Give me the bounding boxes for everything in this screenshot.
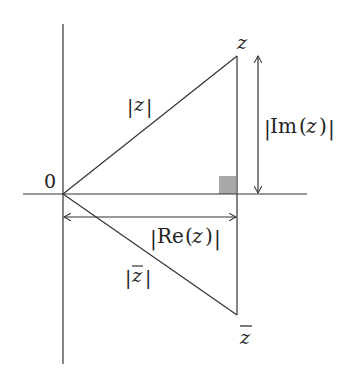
z-conj-label: z: [239, 326, 252, 348]
abs-im-z: z: [305, 114, 317, 138]
abs-re-bar-left: |: [150, 226, 157, 251]
origin-label: 0: [44, 170, 56, 192]
abs-z-label: | z |: [127, 93, 152, 118]
right-angle-marker: [219, 176, 236, 194]
z-label: z: [236, 31, 248, 53]
abs-z-conj-label: | z |: [125, 264, 151, 289]
abs-im-rparen: ): [319, 114, 327, 138]
abs-im-bar-right: |: [328, 116, 335, 141]
z-conj-letter: z: [239, 326, 251, 348]
abs-im-im: Im: [270, 114, 297, 138]
abs-z-letter: z: [133, 93, 145, 115]
abs-z-bar-right: |: [146, 95, 152, 118]
abs-re-rparen: ): [205, 224, 213, 248]
abs-re-label: | Re ( z ) |: [150, 224, 221, 251]
abs-re-z: z: [191, 224, 203, 248]
abs-re-re: Re: [157, 224, 184, 248]
abs-z-bar-left: |: [127, 95, 133, 118]
segment-origin-to-z-conj: [63, 194, 237, 315]
abs-re-bar-right: |: [214, 226, 221, 251]
segment-origin-to-z: [63, 56, 237, 194]
abs-zc-bar-right: |: [145, 266, 151, 289]
abs-zc-letter: z: [131, 264, 143, 286]
abs-im-label: | Im ( z ) |: [264, 114, 335, 141]
abs-zc-bar-left: |: [125, 266, 131, 289]
complex-modulus-diagram: 0 z z | z | | Im ( z ) | | Re ( z ) | | …: [0, 0, 355, 385]
